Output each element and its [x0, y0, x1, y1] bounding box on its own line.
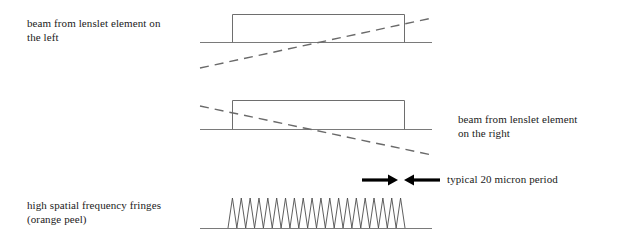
- beam-left-pulse-outline: [233, 15, 405, 43]
- caption-fringes: high spatial frequency fringes (orange p…: [27, 198, 207, 226]
- caption-beam-right: beam from lenslet element on the right: [458, 112, 613, 140]
- beam-right-tilt-line: [200, 106, 432, 155]
- caption-period-measure: typical 20 micron period: [447, 172, 607, 186]
- period-arrow-right-head: [388, 175, 398, 186]
- optics-fringe-diagram: beam from lenslet element on the left be…: [0, 0, 618, 243]
- beam-left-panel: [200, 15, 432, 69]
- beam-right-panel: [200, 101, 432, 156]
- period-arrow-left-head: [404, 175, 414, 186]
- fringe-waveform: [228, 198, 405, 228]
- fringes-panel: [200, 198, 432, 229]
- caption-beam-left: beam from lenslet element on the left: [27, 16, 207, 44]
- beam-right-pulse-outline: [233, 101, 405, 130]
- period-arrow-group: [362, 175, 440, 186]
